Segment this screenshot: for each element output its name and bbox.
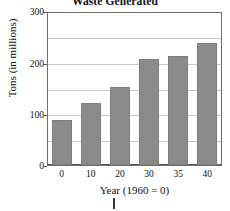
x-tick-label-40: 40 (196, 169, 218, 179)
x-axis-ticks: 0 10 20 30 35 40 (47, 169, 222, 183)
y-tick-label-100: 100 (4, 110, 44, 120)
plot-area (47, 12, 222, 166)
bar-series (48, 13, 221, 165)
bar-35 (168, 56, 188, 165)
bar-40 (197, 43, 217, 165)
x-tick-label-35: 35 (167, 169, 189, 179)
bar-0 (52, 120, 72, 165)
chart-figure: Waste Generated Tons (in millions) 300 2… (0, 0, 230, 211)
bar-30 (139, 59, 159, 165)
y-tick-label-300: 300 (4, 7, 44, 17)
x-tick-label-0: 0 (51, 169, 73, 179)
x-axis-label: Year (1960 = 0) (47, 184, 222, 196)
x-tick-label-20: 20 (109, 169, 131, 179)
bar-10 (81, 103, 101, 165)
y-tick-label-0: 0 (4, 161, 44, 171)
y-tick-label-200: 200 (4, 59, 44, 69)
x-tick-label-10: 10 (80, 169, 102, 179)
chart-title: Waste Generated (0, 0, 230, 7)
bar-20 (110, 87, 130, 165)
x-tick-label-30: 30 (138, 169, 160, 179)
y-tick-mark-0 (43, 166, 47, 167)
text-cursor-icon (113, 198, 115, 209)
